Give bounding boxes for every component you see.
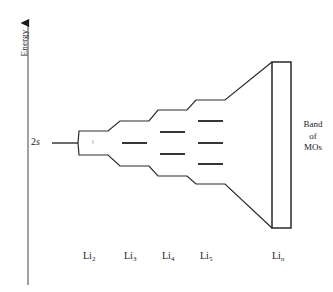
mo-band-diagram: Energy 2s Li2 Li3 Li4 Li5 Lin Band of MO… [0, 0, 333, 292]
band-caption-line-2: of [294, 131, 332, 143]
lower-envelope-line [78, 143, 272, 228]
band-of-mos-caption: Band of MOs [294, 119, 332, 154]
x-label-li4: Li4 [162, 250, 174, 263]
x-label-li2: Li2 [83, 250, 95, 263]
energy-axis-label: Energy [19, 13, 29, 73]
diagram-canvas [0, 0, 333, 292]
band-of-mos-box [272, 62, 291, 228]
x-label-li5: Li5 [200, 250, 212, 263]
band-caption-line-1: Band [294, 119, 332, 131]
level-label-2s: 2s [31, 136, 40, 147]
upper-envelope-line [78, 62, 272, 143]
inner-energy-levels [122, 121, 223, 164]
level-diagram [52, 62, 272, 228]
band-caption-line-3: MOs [294, 142, 332, 154]
x-label-lin: Lin [272, 250, 284, 263]
x-label-li3: Li3 [124, 250, 136, 263]
